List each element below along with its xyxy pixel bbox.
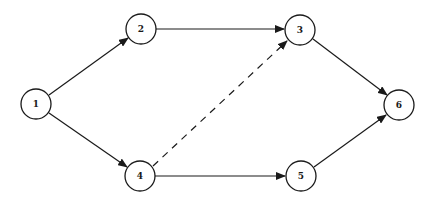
node-6-label: 6 <box>396 100 402 110</box>
node-4-label: 4 <box>137 171 143 181</box>
node-1-label: 1 <box>33 99 39 109</box>
node-2: 2 <box>126 14 156 44</box>
network-diagram: 1 2 3 4 5 6 <box>0 0 436 206</box>
node-1: 1 <box>21 89 51 119</box>
node-2-label: 2 <box>138 24 144 34</box>
node-4: 4 <box>125 161 155 191</box>
node-5-label: 5 <box>298 171 304 181</box>
node-3-label: 3 <box>297 25 303 35</box>
node-5: 5 <box>286 161 316 191</box>
edge-1-4 <box>49 113 127 167</box>
edge-5-6 <box>314 115 386 167</box>
node-6: 6 <box>384 90 414 120</box>
edge-4-3-dummy <box>153 41 287 166</box>
edge-3-6 <box>313 39 387 95</box>
edge-1-2 <box>49 38 128 95</box>
node-3: 3 <box>285 15 315 45</box>
